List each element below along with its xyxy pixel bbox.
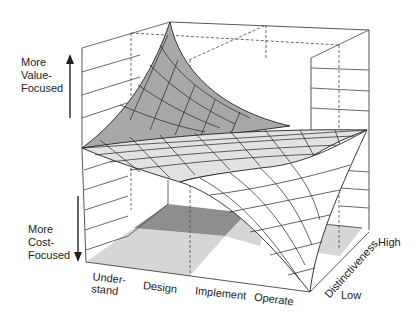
value-arrow [66,54,74,118]
value-focused-label: More Value- Focused [21,56,63,95]
depth-high-label: High [378,236,401,248]
depth-low-label: Low [341,289,361,301]
x-tick-understand: Under- stand [91,270,127,297]
cost-arrow [74,196,82,262]
cost-focused-label: More Cost- Focused [28,223,70,262]
